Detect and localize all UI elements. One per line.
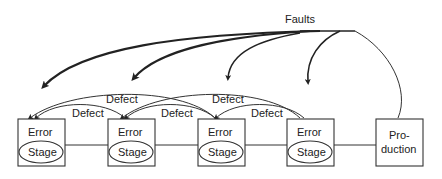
stage-label: Stage — [118, 146, 147, 158]
production-label-line1: Pro- — [389, 129, 410, 141]
fault-arrow-stage-1 — [44, 31, 320, 86]
production-box: Pro- duction — [376, 119, 423, 166]
error-label: Error — [208, 126, 233, 138]
faults-defects-diagram: Faults Defect Defect Defect Defect Defec… — [0, 0, 442, 179]
stage-label: Stage — [28, 146, 57, 158]
defect-label-lower-2: Defect — [161, 107, 193, 119]
production-feedback-curve — [355, 31, 401, 118]
error-stage-box-1: Error Stage — [18, 119, 65, 166]
error-stage-box-3: Error Stage — [198, 119, 245, 166]
defect-label-lower-3: Defect — [251, 107, 283, 119]
error-stage-box-2: Error Stage — [108, 119, 155, 166]
fault-arrow-stage-2 — [134, 31, 310, 78]
defect-label-lower-1: Defect — [72, 107, 104, 119]
faults-label: Faults — [285, 13, 315, 25]
fault-arrow-stage-4 — [308, 31, 340, 82]
error-label: Error — [297, 126, 322, 138]
error-label: Error — [118, 126, 143, 138]
stage-label: Stage — [297, 146, 326, 158]
production-label-line2: duction — [381, 143, 416, 155]
stage-label: Stage — [208, 146, 237, 158]
error-stage-box-4: Error Stage — [287, 119, 334, 166]
defect-label-upper-2: Defect — [212, 93, 244, 105]
defect-label-upper-1: Defect — [106, 93, 138, 105]
error-label: Error — [28, 126, 53, 138]
fault-arrow-stage-3 — [228, 33, 300, 78]
